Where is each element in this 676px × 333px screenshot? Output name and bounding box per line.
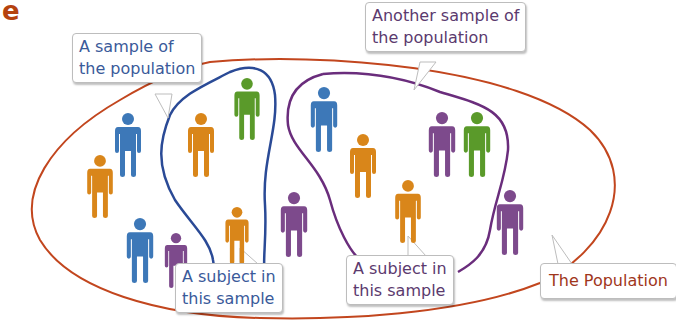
green-person-icon bbox=[234, 78, 259, 140]
subject1-callout: A subject in this sample bbox=[175, 263, 283, 313]
population-sampling-diagram: e A sample of the population Another sam… bbox=[0, 0, 676, 333]
sample2-callout-line1: Another sample of bbox=[372, 5, 519, 27]
subject2-pointer bbox=[408, 236, 426, 256]
people-group bbox=[87, 78, 523, 288]
orange-person-icon bbox=[188, 113, 214, 177]
purple-person-icon bbox=[497, 190, 523, 255]
green-person-icon bbox=[464, 112, 490, 177]
purple-person-icon bbox=[281, 192, 307, 257]
figure-label: e bbox=[2, 0, 20, 26]
subject2-callout-line1: A subject in bbox=[353, 258, 447, 280]
blue-person-icon bbox=[115, 113, 141, 177]
blue-person-icon bbox=[127, 218, 153, 283]
subject2-callout-line2: this sample bbox=[353, 280, 447, 302]
blue-person-icon bbox=[311, 87, 337, 152]
population-callout-line1: The Population bbox=[549, 270, 668, 292]
population-callout: The Population bbox=[540, 263, 676, 299]
subject1-callout-line1: A subject in bbox=[182, 266, 276, 288]
sample2-callout-line2: the population bbox=[372, 27, 519, 49]
orange-person-icon bbox=[87, 155, 113, 218]
sample1-callout-line1: A sample of bbox=[79, 36, 195, 58]
sample1-callout-line2: the population bbox=[79, 58, 195, 80]
sample2-callout: Another sample of the population bbox=[365, 2, 526, 52]
sample1-callout: A sample of the population bbox=[72, 33, 202, 83]
orange-person-icon bbox=[350, 134, 376, 198]
purple-person-icon bbox=[429, 112, 455, 177]
subject2-callout: A subject in this sample bbox=[346, 255, 454, 305]
population-pointer bbox=[552, 235, 572, 264]
orange-person-icon bbox=[395, 180, 421, 243]
subject1-callout-line2: this sample bbox=[182, 288, 276, 310]
